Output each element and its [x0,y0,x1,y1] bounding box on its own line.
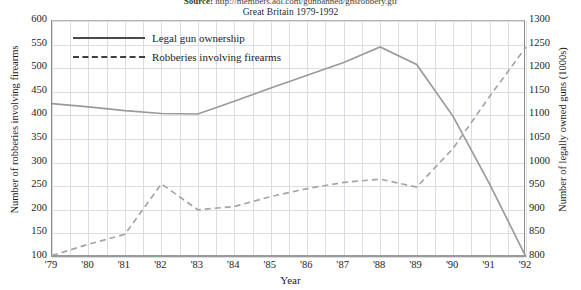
y-tick-label-right: 1100 [529,108,550,119]
x-tick-label: '91 [482,259,494,270]
line-legal-gun-ownership [52,47,526,257]
y-tick-label-left: 200 [31,203,47,214]
y-tick-label-left: 350 [31,132,47,143]
y-tick-label-right: 800 [529,250,545,261]
y-tick-label-left: 250 [31,179,47,190]
x-tick-label: '92 [519,259,531,270]
y-tick-label-right: 850 [529,226,545,237]
x-tick-label: '87 [336,259,348,270]
y-tick-label-left: 150 [31,226,47,237]
y-axis-right-title: Number of legally owned guns (1000s) [557,12,568,248]
y-tick-label-right: 950 [529,179,545,190]
x-tick-label: '84 [227,259,239,270]
x-tick-label: '79 [45,259,57,270]
x-axis-title: Year [0,274,581,286]
y-tick-label-right: 1200 [529,61,550,72]
x-tick-label: '86 [300,259,312,270]
source-attribution: Source: http://members.aol.com/gunbanned… [0,0,581,6]
x-tick-label: '82 [154,259,166,270]
y-tick-label-left: 300 [31,156,47,167]
y-tick-label-right: 1000 [529,156,550,167]
legend-solid-line-icon [73,33,145,43]
legend-label: Legal gun ownership [152,32,245,44]
legend-dashed-line-icon [73,52,145,62]
line-robberies-involving-firearms [52,47,526,256]
legend-item-legal-gun-ownership: Legal gun ownership [73,28,281,47]
source-label: Source: [184,0,213,6]
y-tick-label-left: 550 [31,38,47,49]
x-tick-label: '89 [409,259,421,270]
y-tick-label-left: 500 [31,61,47,72]
x-tick-label: '90 [446,259,458,270]
x-tick-label: '88 [373,259,385,270]
x-tick-label: '85 [264,259,276,270]
y-tick-label-left: 600 [31,14,47,25]
source-url: http://members.aol.com/gunbanned/gnsrobb… [215,0,397,6]
y-tick-label-right: 1250 [529,38,550,49]
y-tick-label-right: 1150 [529,85,550,96]
x-axis-line [51,255,525,257]
y-tick-label-left: 450 [31,85,47,96]
y-tick-label-right: 1050 [529,132,550,143]
x-tick-label: '80 [81,259,93,270]
legend-label: Robberies involving firearms [152,51,281,63]
y-axis-left-ticks: 100150200250300350400450500550600 [0,0,47,290]
y-tick-label-right: 900 [529,203,545,214]
y-axis-right-ticks: 8008509009501000105011001150120012501300 [529,0,575,290]
y-tick-label-right: 1300 [529,14,550,25]
y-axis-left-title: Number of robberies involving firearms [9,12,20,248]
gridline-vertical [526,21,527,256]
x-tick-label: '83 [191,259,203,270]
chart-legend: Legal gun ownership Robberies involving … [73,28,281,66]
legend-item-robberies-involving-firearms: Robberies involving firearms [73,47,281,66]
x-tick-label: '81 [118,259,130,270]
chart-title: Great Britain 1979-1992 [0,7,581,17]
y-tick-label-left: 400 [31,108,47,119]
chart-screenshot: Source: http://members.aol.com/gunbanned… [0,0,581,290]
